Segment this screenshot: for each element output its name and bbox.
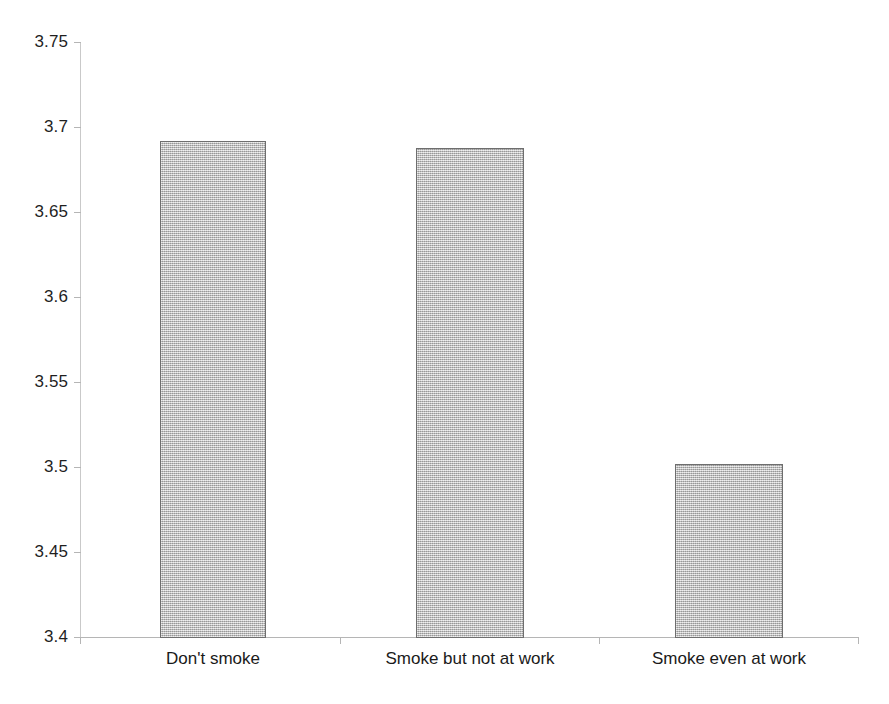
y-axis-label-3.4: 3.4 [6,628,68,645]
y-axis-tick-3.45 [74,552,81,553]
y-axis-label-3.75: 3.75 [6,33,68,50]
y-axis-tick-3.6 [74,297,81,298]
bar-chart-figure: 3.75 3.7 3.65 3.6 3.55 3.5 3.45 3.4 [0,0,889,704]
x-axis-separator-left [80,637,81,644]
y-axis-tick-3.7 [74,127,81,128]
x-axis-separator-1 [340,637,341,644]
y-axis-label-3.55: 3.55 [6,373,68,390]
y-axis-label-3.6: 3.6 [6,288,68,305]
y-axis-label-3.45: 3.45 [6,543,68,560]
x-axis-label-smoke-but-not-at-work: Smoke but not at work [350,649,590,669]
y-axis-tick-3.75 [74,42,81,43]
x-axis-label-smoke-even-at-work: Smoke even at work [619,649,839,669]
y-axis-line [80,42,81,638]
bar-smoke-even-at-work [675,464,783,638]
y-axis-tick-3.55 [74,382,81,383]
y-axis-label-3.65: 3.65 [6,203,68,220]
x-axis-separator-right [858,637,859,644]
y-axis-tick-3.65 [74,212,81,213]
bar-dont-smoke [160,141,266,638]
y-axis-tick-3.5 [74,467,81,468]
y-axis-label-3.7: 3.7 [6,118,68,135]
y-axis-label-3.5: 3.5 [6,458,68,475]
plot-area: 3.75 3.7 3.65 3.6 3.55 3.5 3.45 3.4 [0,0,889,704]
x-axis-separator-2 [599,637,600,644]
bar-smoke-but-not-at-work [416,148,524,638]
x-axis-label-dont-smoke: Don't smoke [130,649,296,669]
